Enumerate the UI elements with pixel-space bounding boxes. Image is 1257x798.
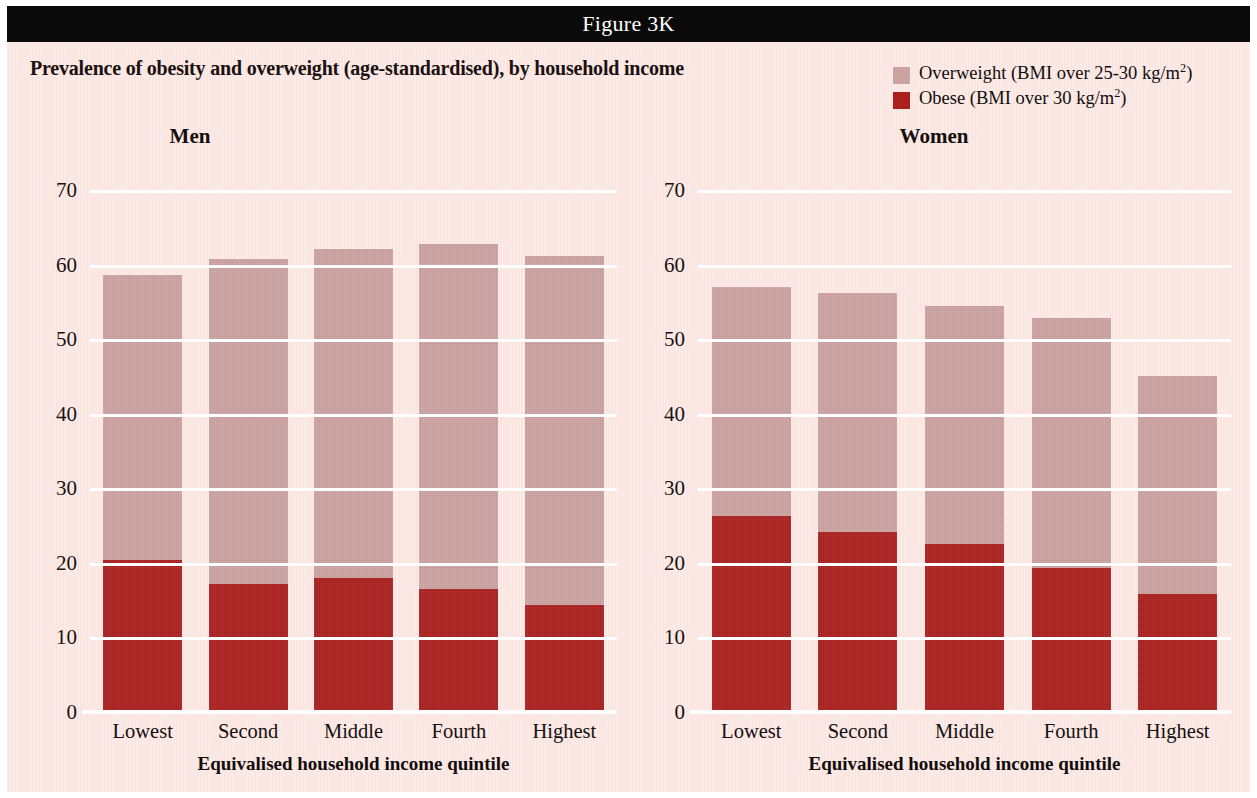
y-axis-tick-70-men: 70 bbox=[56, 178, 77, 203]
gridline-60 bbox=[698, 265, 1231, 268]
x-axis-tick-label-second-men: Second bbox=[195, 720, 300, 743]
gridline-20 bbox=[90, 563, 617, 566]
gridline-70 bbox=[90, 190, 617, 193]
y-axis-tick-70-women: 70 bbox=[664, 178, 685, 203]
gridline-40 bbox=[698, 414, 1231, 417]
bar-segment-overweight-lowest[interactable] bbox=[712, 287, 791, 516]
bar-segment-obese-lowest[interactable] bbox=[103, 560, 182, 712]
stacked-bar-second[interactable] bbox=[818, 293, 897, 712]
stacked-bar-highest[interactable] bbox=[525, 256, 604, 712]
panel-women: Women LowestSecondMiddleFourthHighest Eq… bbox=[626, 118, 1242, 790]
bar-slot-middle bbox=[301, 190, 406, 712]
x-axis-tick-label-middle-women: Middle bbox=[911, 720, 1018, 743]
gridline-10 bbox=[90, 637, 617, 640]
bar-slot-second bbox=[195, 190, 300, 712]
x-axis-line-men bbox=[82, 710, 617, 714]
y-axis-tick-20-men: 20 bbox=[56, 550, 77, 575]
stacked-bar-lowest[interactable] bbox=[712, 287, 791, 712]
bar-segment-obese-highest[interactable] bbox=[1138, 594, 1217, 712]
x-axis-tick-label-highest-men: Highest bbox=[512, 720, 617, 743]
bar-segment-obese-middle[interactable] bbox=[314, 578, 393, 712]
bar-segment-obese-fourth[interactable] bbox=[419, 589, 498, 712]
bar-segment-overweight-fourth[interactable] bbox=[1032, 318, 1111, 569]
bar-slot-lowest bbox=[698, 190, 805, 712]
chart-legend: Overweight (BMI over 25-30 kg/m2) Obese … bbox=[893, 64, 1192, 114]
bar-segment-overweight-second[interactable] bbox=[818, 293, 897, 532]
x-axis-tick-label-highest-women: Highest bbox=[1124, 720, 1231, 743]
y-axis-tick-40-men: 40 bbox=[56, 401, 77, 426]
stacked-bar-second[interactable] bbox=[209, 259, 288, 712]
x-axis-tick-label-fourth-women: Fourth bbox=[1018, 720, 1125, 743]
x-axis-tick-labels-women: LowestSecondMiddleFourthHighest bbox=[698, 720, 1231, 743]
gridline-50 bbox=[90, 339, 617, 342]
legend-item-overweight: Overweight (BMI over 25-30 kg/m2) bbox=[893, 64, 1192, 84]
bar-segment-obese-middle[interactable] bbox=[925, 544, 1004, 712]
panel-men: Men Percent LowestSecondMiddleFourthHigh… bbox=[14, 118, 626, 790]
bar-slot-middle bbox=[911, 190, 1018, 712]
legend-item-obese: Obese (BMI over 30 kg/m2) bbox=[893, 89, 1192, 109]
y-axis-tick-50-women: 50 bbox=[664, 327, 685, 352]
bar-segment-obese-second[interactable] bbox=[818, 532, 897, 712]
gridline-30 bbox=[698, 488, 1231, 491]
x-axis-tick-label-lowest-men: Lowest bbox=[90, 720, 195, 743]
bar-segment-overweight-lowest[interactable] bbox=[103, 275, 182, 560]
figure-banner: Figure 3K bbox=[7, 6, 1250, 42]
gridline-50 bbox=[698, 339, 1231, 342]
bar-group-women bbox=[698, 190, 1231, 712]
bar-slot-second bbox=[805, 190, 912, 712]
bar-segment-obese-lowest[interactable] bbox=[712, 516, 791, 712]
x-axis-title-men: Equivalised household income quintile bbox=[90, 753, 617, 775]
bar-slot-lowest bbox=[90, 190, 195, 712]
gridline-20 bbox=[698, 563, 1231, 566]
bar-segment-overweight-second[interactable] bbox=[209, 259, 288, 584]
bar-segment-overweight-highest[interactable] bbox=[1138, 376, 1217, 594]
legend-label-overweight: Overweight (BMI over 25-30 kg/m2) bbox=[919, 64, 1192, 83]
figure-root: Figure 3K Prevalence of obesity and over… bbox=[0, 0, 1257, 798]
figure-subtitle: Prevalence of obesity and overweight (ag… bbox=[30, 57, 684, 80]
y-axis-tick-0-men: 0 bbox=[67, 700, 78, 725]
bar-segment-overweight-highest[interactable] bbox=[525, 256, 604, 605]
x-axis-tick-label-lowest-women: Lowest bbox=[698, 720, 805, 743]
x-axis-line-women bbox=[690, 710, 1231, 714]
figure-number: Figure 3K bbox=[582, 11, 675, 37]
bar-group-men bbox=[90, 190, 617, 712]
gridline-70 bbox=[698, 190, 1231, 193]
bar-slot-highest bbox=[1124, 190, 1231, 712]
gridline-30 bbox=[90, 488, 617, 491]
gridline-40 bbox=[90, 414, 617, 417]
bar-segment-obese-second[interactable] bbox=[209, 584, 288, 712]
bar-slot-highest bbox=[512, 190, 617, 712]
gridline-60 bbox=[90, 265, 617, 268]
legend-swatch-overweight-icon bbox=[893, 67, 910, 84]
y-axis-tick-30-men: 30 bbox=[56, 476, 77, 501]
stacked-bar-fourth[interactable] bbox=[419, 244, 498, 712]
plot-area-men: Percent LowestSecondMiddleFourthHighest … bbox=[90, 190, 617, 712]
bar-segment-obese-highest[interactable] bbox=[525, 605, 604, 712]
y-axis-tick-30-women: 30 bbox=[664, 476, 685, 501]
y-axis-tick-10-women: 10 bbox=[664, 625, 685, 650]
x-axis-tick-label-second-women: Second bbox=[805, 720, 912, 743]
bar-slot-fourth bbox=[1018, 190, 1125, 712]
y-axis-tick-0-women: 0 bbox=[675, 700, 686, 725]
plot-area-women: LowestSecondMiddleFourthHighest Equivali… bbox=[698, 190, 1231, 712]
stacked-bar-fourth[interactable] bbox=[1032, 318, 1111, 712]
panel-title-men: Men bbox=[0, 124, 496, 149]
x-axis-tick-label-middle-men: Middle bbox=[301, 720, 406, 743]
y-axis-tick-10-men: 10 bbox=[56, 625, 77, 650]
x-axis-tick-label-fourth-men: Fourth bbox=[406, 720, 511, 743]
bar-segment-overweight-fourth[interactable] bbox=[419, 244, 498, 589]
x-axis-title-women: Equivalised household income quintile bbox=[698, 753, 1231, 775]
stacked-bar-middle[interactable] bbox=[925, 306, 1004, 712]
y-axis-tick-20-women: 20 bbox=[664, 550, 685, 575]
y-axis-tick-50-men: 50 bbox=[56, 327, 77, 352]
gridline-10 bbox=[698, 637, 1231, 640]
x-axis-tick-labels-men: LowestSecondMiddleFourthHighest bbox=[90, 720, 617, 743]
bar-slot-fourth bbox=[406, 190, 511, 712]
panel-title-women: Women bbox=[626, 124, 1242, 149]
stacked-bar-middle[interactable] bbox=[314, 249, 393, 712]
stacked-bar-highest[interactable] bbox=[1138, 376, 1217, 712]
y-axis-tick-60-men: 60 bbox=[56, 252, 77, 277]
legend-label-obese: Obese (BMI over 30 kg/m2) bbox=[919, 89, 1127, 108]
legend-swatch-obese-icon bbox=[893, 92, 910, 109]
y-axis-tick-40-women: 40 bbox=[664, 401, 685, 426]
